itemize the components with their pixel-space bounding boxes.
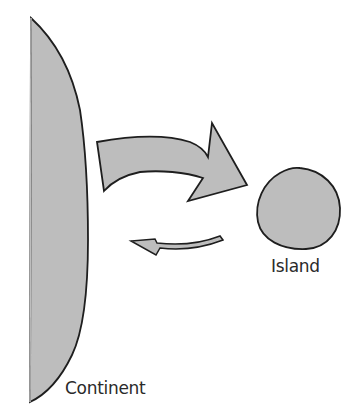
island-label: Island [271, 256, 320, 276]
large-arrow-icon [97, 123, 247, 201]
diagram-canvas [0, 0, 361, 420]
continent-left-edge [30, 18, 31, 402]
continent-label: Continent [65, 378, 145, 398]
island-shape [257, 168, 340, 249]
continent-shape [30, 18, 88, 402]
small-arrow-icon [131, 236, 223, 255]
